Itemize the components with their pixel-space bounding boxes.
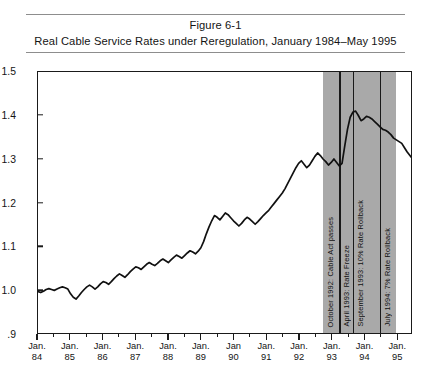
x-tick-mark [69, 334, 70, 340]
x-minor-tick [217, 334, 218, 337]
x-tick-mark [397, 334, 398, 340]
rate-line [38, 111, 411, 299]
x-minor-tick [184, 334, 185, 337]
y-tick-label: 1.5 [2, 66, 16, 77]
y-tick-mark [37, 289, 43, 290]
y-tick-label: 1.2 [2, 197, 16, 208]
y-tick-mark [37, 158, 43, 159]
x-minor-tick [151, 334, 152, 337]
x-minor-tick [282, 334, 283, 337]
x-minor-tick [53, 334, 54, 337]
y-tick-mark [37, 246, 43, 247]
header-rule-top [26, 14, 405, 15]
x-minor-tick [86, 334, 87, 337]
x-tick-label: Jan.95 [374, 341, 420, 364]
x-tick-mark [36, 334, 37, 340]
x-tick-mark [200, 334, 201, 340]
x-tick-mark [233, 334, 234, 340]
x-minor-tick [249, 334, 250, 337]
x-tick-month: Jan. [374, 341, 420, 352]
x-minor-tick [348, 334, 349, 337]
x-tick-mark [364, 334, 365, 340]
data-line-layer [38, 72, 411, 333]
x-tick-mark [102, 334, 103, 340]
x-tick-mark [167, 334, 168, 340]
y-tick-mark [37, 202, 43, 203]
x-tick-mark [331, 334, 332, 340]
figure-title-block: Figure 6-1 Real Cable Service Rates unde… [0, 17, 431, 49]
figure-number: Figure 6-1 [0, 17, 431, 33]
x-minor-tick [315, 334, 316, 337]
x-minor-tick [380, 334, 381, 337]
header-rule-bottom [26, 52, 405, 53]
x-tick-mark [298, 334, 299, 340]
x-tick-year: 95 [374, 352, 420, 363]
y-tick-label: 1.0 [2, 285, 16, 296]
figure-container: Figure 6-1 Real Cable Service Rates unde… [0, 0, 431, 376]
x-tick-mark [266, 334, 267, 340]
plot-area: October 1992: Cable Act passesApril 1993… [37, 71, 412, 334]
y-tick-label: 1.4 [2, 109, 16, 120]
y-tick-label: .9 [7, 329, 16, 340]
y-tick-mark [37, 114, 43, 115]
y-tick-label: 1.1 [2, 241, 16, 252]
y-tick-label: 1.3 [2, 153, 16, 164]
x-tick-mark [135, 334, 136, 340]
figure-title: Real Cable Service Rates under Reregulat… [0, 33, 431, 49]
x-minor-tick [118, 334, 119, 337]
